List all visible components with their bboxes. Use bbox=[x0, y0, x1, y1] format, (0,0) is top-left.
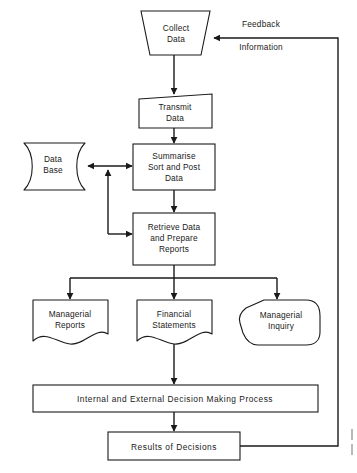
node-retrieve-prepare[interactable]: Retrieve Data and Prepare Reports bbox=[133, 213, 215, 265]
transmit-data-label-line2: Data bbox=[166, 113, 184, 123]
feedback-label-line1: Feedback bbox=[242, 19, 281, 29]
node-summarise-sort-post[interactable]: Summarise Sort and Post Data bbox=[133, 144, 215, 190]
node-managerial-inquiry[interactable]: Managerial Inquiry bbox=[239, 300, 320, 345]
results-of-decisions-label: Results of Decisions bbox=[131, 442, 217, 452]
retrieve-label-line1: Retrieve Data bbox=[148, 222, 201, 232]
connector-retrieve-to-database-link bbox=[108, 170, 132, 234]
node-managerial-reports[interactable]: Managerial Reports bbox=[33, 300, 108, 344]
data-base-label-line1: Data bbox=[44, 154, 62, 164]
edge-label-feedback-information: Feedback Information bbox=[239, 19, 283, 52]
node-financial-statements[interactable]: Financial Statements bbox=[137, 300, 212, 344]
managerial-reports-label-line1: Managerial bbox=[49, 309, 92, 319]
transmit-data-label-line1: Transmit bbox=[158, 102, 192, 112]
node-results-of-decisions[interactable]: Results of Decisions bbox=[108, 432, 240, 460]
retrieve-label-line2: and Prepare bbox=[150, 233, 198, 243]
flowchart-svg: Collect Data Transmit Data Data Base Sum… bbox=[0, 0, 357, 473]
summarise-label-line1: Summarise bbox=[152, 151, 196, 161]
managerial-inquiry-label-line2: Inquiry bbox=[268, 321, 295, 331]
managerial-inquiry-label-line1: Managerial bbox=[260, 310, 303, 320]
retrieve-label-line3: Reports bbox=[159, 244, 189, 254]
managerial-reports-label-line2: Reports bbox=[55, 320, 85, 330]
summarise-label-line2: Sort and Post bbox=[148, 162, 201, 172]
decision-process-label: Internal and External Decision Making Pr… bbox=[77, 394, 273, 404]
collect-data-label-line1: Collect bbox=[163, 23, 190, 33]
node-decision-making-process[interactable]: Internal and External Decision Making Pr… bbox=[33, 385, 318, 412]
financial-statements-label-line2: Statements bbox=[152, 320, 195, 330]
financial-statements-label-line1: Financial bbox=[157, 309, 192, 319]
node-transmit-data[interactable]: Transmit Data bbox=[139, 94, 212, 128]
node-collect-data[interactable]: Collect Data bbox=[141, 11, 210, 55]
node-data-base[interactable]: Data Base bbox=[24, 143, 85, 190]
scan-artifact-marks bbox=[351, 429, 353, 455]
feedback-label-line2: Information bbox=[239, 42, 283, 52]
connector-retrieve-to-outputs bbox=[70, 265, 277, 299]
data-base-label-line2: Base bbox=[43, 165, 63, 175]
summarise-label-line3: Data bbox=[165, 173, 183, 183]
flowchart-canvas: Collect Data Transmit Data Data Base Sum… bbox=[0, 0, 357, 473]
collect-data-label-line2: Data bbox=[167, 34, 185, 44]
